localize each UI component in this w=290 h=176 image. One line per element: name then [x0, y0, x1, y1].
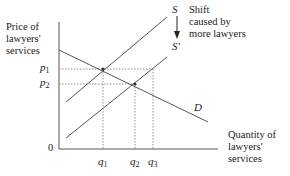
supply-label-s-prime: S' — [172, 40, 180, 52]
y-axis-label-line: lawyers' — [6, 33, 54, 45]
shift-annotation-line: caused by — [189, 16, 289, 28]
quantity-tick-q2: q2 — [130, 155, 140, 169]
origin-label: 0 — [48, 142, 53, 154]
x-axis-label-line: lawyers' — [228, 141, 290, 153]
quantity-tick-q3: q3 — [148, 155, 158, 169]
price-tick-p1: p1 — [40, 61, 50, 75]
y-axis-label-line: Price of — [6, 21, 54, 33]
y-axis-label-line: services — [6, 45, 54, 57]
demand-label-d: D — [194, 101, 202, 113]
x-axis-label: Quantity of lawyers' services — [228, 129, 290, 165]
y-axis-label: Price of lawyers' services — [6, 21, 54, 57]
supply-curve-s — [66, 17, 167, 102]
x-axis-label-line: services — [228, 153, 290, 165]
shift-annotation-line: more lawyers — [189, 28, 289, 40]
equilibrium-point-2 — [133, 82, 136, 85]
dotted-guides — [59, 69, 153, 149]
quantity-tick-q1: q1 — [98, 155, 108, 169]
shift-annotation-line: Shift — [189, 4, 289, 16]
shift-arrow-icon — [174, 16, 180, 39]
x-axis-label-line: Quantity of — [228, 129, 290, 141]
demand-curve-d — [59, 50, 208, 122]
price-tick-p2: p2 — [40, 76, 50, 90]
shift-annotation: Shift caused by more lawyers — [189, 4, 289, 40]
supply-label-s: S — [172, 3, 178, 15]
equilibrium-point-1 — [101, 67, 104, 70]
